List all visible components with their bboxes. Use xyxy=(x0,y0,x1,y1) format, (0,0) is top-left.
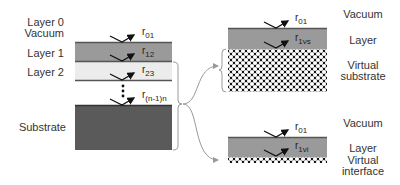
label-layer-bottom: Layer xyxy=(333,143,393,153)
ellipsis-dot xyxy=(122,95,125,98)
reflection-arrow-icon xyxy=(110,98,134,105)
reflection-arrow-icon xyxy=(110,35,134,42)
layer-band xyxy=(228,29,327,49)
connector-arrow-to-virtual-substrate xyxy=(183,66,218,104)
reflection-arrow-icon xyxy=(264,21,288,28)
reflection-coefficient-r1vs: r1vs xyxy=(295,32,311,46)
reflection-coefficient-rn: r(n-1)n xyxy=(142,89,167,103)
left-brace-icon xyxy=(173,62,182,150)
label-vacuum-top: Vacuum xyxy=(333,9,393,19)
label-interface-bottom: interface xyxy=(333,166,393,176)
reflection-coefficient-r12: r12 xyxy=(142,45,154,59)
reflection-coefficient-r01: r01 xyxy=(142,26,154,40)
label-virtual-top: Virtual xyxy=(333,60,393,70)
label-substrate: Substrate xyxy=(10,122,66,132)
layer2-band xyxy=(75,62,172,81)
right-brace-icon xyxy=(219,49,226,92)
label-layer1: Layer 1 xyxy=(14,48,64,58)
layer-band xyxy=(228,138,327,157)
label-vacuum-bottom: Vacuum xyxy=(333,118,393,128)
virtual-interface-band xyxy=(228,157,327,163)
reflection-arrow-icon xyxy=(264,130,288,137)
label-substrate-top: substrate xyxy=(333,71,393,81)
reflection-coefficient-r1vi: r1vi xyxy=(295,140,309,154)
connector-arrow-to-virtual-interface xyxy=(183,104,218,160)
reflection-coefficient-r01-top: r01 xyxy=(295,12,307,26)
label-layer-top: Layer xyxy=(333,35,393,45)
label-vacuum: Vacuum xyxy=(14,28,64,38)
right-top-layer-stack xyxy=(228,21,327,92)
virtual-substrate-band xyxy=(228,49,327,92)
label-layer2: Layer 2 xyxy=(14,67,64,77)
reflection-coefficient-r01-bottom: r01 xyxy=(295,121,307,135)
label-layer0: Layer 0 xyxy=(14,17,64,27)
ellipsis-dot xyxy=(122,85,125,88)
layer1-band xyxy=(75,43,172,62)
ellipsis-dot xyxy=(122,90,125,93)
substrate-band xyxy=(75,105,172,150)
reflection-coefficient-r23: r23 xyxy=(142,64,154,78)
right-bottom-layer-stack xyxy=(228,130,327,163)
label-virtual-bottom: Virtual xyxy=(333,155,393,165)
